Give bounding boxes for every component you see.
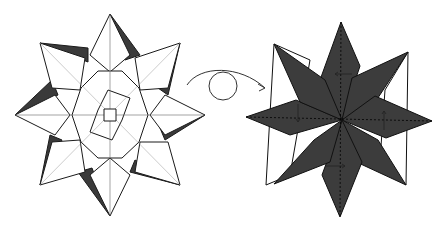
origami-diagram <box>0 0 436 228</box>
star-back <box>246 22 432 217</box>
turn-over-arrow-icon <box>187 70 265 100</box>
star-front <box>15 14 205 216</box>
